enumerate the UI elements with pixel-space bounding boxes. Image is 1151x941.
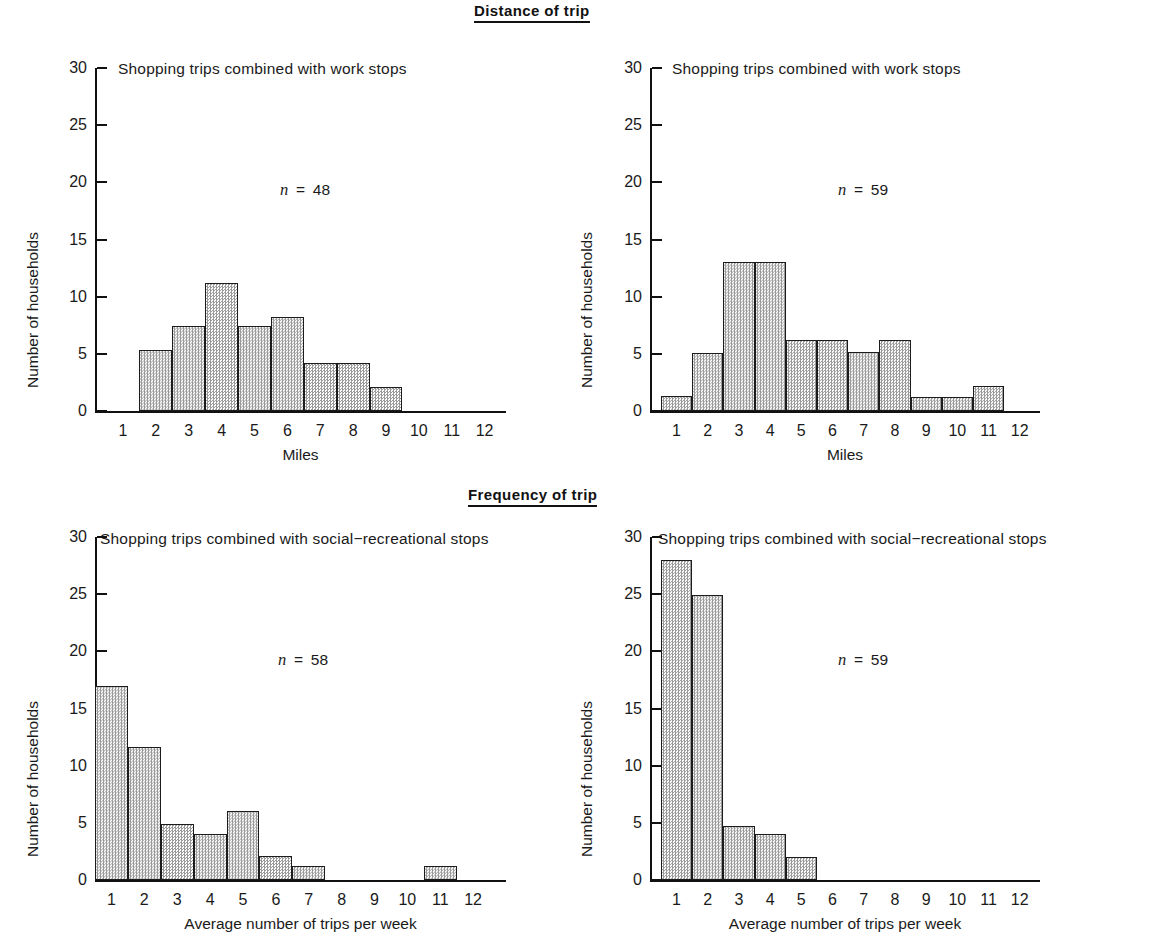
x-axis-line-top-right <box>650 411 1040 413</box>
histogram-bar <box>786 340 817 411</box>
y-tick-top-right-10 <box>652 296 662 298</box>
x-axis-title-top-left: Miles <box>95 446 506 464</box>
y-tick-top-left-10 <box>97 296 107 298</box>
y-tick-label-top-left-10: 10 <box>51 289 87 305</box>
y-tick-label-bottom-right-15: 15 <box>606 701 642 717</box>
x-axis-title-bottom-right: Average number of trips per week <box>650 915 1040 933</box>
y-tick-label-bottom-right-25: 25 <box>606 586 642 602</box>
y-tick-top-right-15 <box>652 239 662 241</box>
histogram-bar <box>942 397 973 411</box>
y-tick-label-bottom-left-20: 20 <box>51 643 87 659</box>
y-tick-label-top-left-30: 30 <box>51 60 87 76</box>
histogram-bar <box>95 686 128 880</box>
histogram-bar <box>337 363 370 411</box>
histogram-bar <box>755 834 786 880</box>
y-tick-label-top-right-15: 15 <box>606 232 642 248</box>
y-axis-title-bottom-right: Number of households <box>578 701 596 857</box>
y-tick-label-top-right-30: 30 <box>606 60 642 76</box>
y-tick-label-bottom-right-30: 30 <box>606 529 642 545</box>
x-axis-line-bottom-right <box>650 880 1040 882</box>
plot-area-bottom-right: 051015202530123456789101112 <box>650 537 1040 880</box>
y-tick-label-top-right-0: 0 <box>606 403 642 419</box>
x-tick-label-bottom-left-12: 12 <box>453 892 493 908</box>
histogram-bar <box>259 856 292 880</box>
y-tick-top-left-5 <box>97 353 107 355</box>
y-tick-label-bottom-left-15: 15 <box>51 701 87 717</box>
histogram-bar <box>692 353 723 411</box>
y-tick-bottom-left-30 <box>97 536 107 538</box>
y-tick-top-right-20 <box>652 181 662 183</box>
y-tick-bottom-right-30 <box>652 536 662 538</box>
y-tick-top-left-30 <box>97 67 107 69</box>
histogram-bar <box>661 560 692 880</box>
y-tick-bottom-left-20 <box>97 650 107 652</box>
histogram-bar <box>292 866 325 880</box>
y-tick-top-right-30 <box>652 67 662 69</box>
y-tick-label-top-left-20: 20 <box>51 174 87 190</box>
y-axis-title-top-left: Number of households <box>24 232 42 388</box>
y-tick-top-left-25 <box>97 124 107 126</box>
y-tick-label-bottom-left-0: 0 <box>51 872 87 888</box>
histogram-bar <box>139 350 172 411</box>
histogram-bar <box>692 595 723 880</box>
y-tick-label-top-right-20: 20 <box>606 174 642 190</box>
y-tick-label-top-left-5: 5 <box>51 346 87 362</box>
histogram-bar <box>227 811 260 880</box>
histogram-bar <box>161 824 194 880</box>
histogram-bar <box>238 326 271 411</box>
y-tick-label-bottom-left-30: 30 <box>51 529 87 545</box>
y-tick-top-right-5 <box>652 353 662 355</box>
y-tick-label-top-left-0: 0 <box>51 403 87 419</box>
histogram-bar <box>304 363 337 411</box>
y-tick-top-left-0 <box>97 410 107 412</box>
y-tick-top-right-25 <box>652 124 662 126</box>
x-axis-line-bottom-left <box>95 880 506 882</box>
y-tick-label-top-right-10: 10 <box>606 289 642 305</box>
y-axis-title-top-right: Number of households <box>578 232 596 388</box>
histogram-bar <box>786 857 817 880</box>
x-tick-label-top-left-12: 12 <box>465 423 505 439</box>
histogram-bar <box>128 747 161 880</box>
histogram-bar <box>973 386 1004 411</box>
y-tick-top-left-20 <box>97 181 107 183</box>
histogram-bar <box>271 317 304 411</box>
histogram-bar <box>424 866 457 880</box>
x-axis-line-top-left <box>95 411 506 413</box>
x-tick-label-bottom-right-12: 12 <box>1000 892 1040 908</box>
y-axis-title-bottom-left: Number of households <box>24 701 42 857</box>
y-tick-label-bottom-left-10: 10 <box>51 758 87 774</box>
histogram-bar <box>755 262 786 411</box>
y-tick-label-top-left-15: 15 <box>51 232 87 248</box>
plot-area-top-right: 051015202530123456789101112 <box>650 68 1040 411</box>
histogram-bar <box>848 352 879 411</box>
y-tick-label-bottom-right-10: 10 <box>606 758 642 774</box>
y-tick-label-bottom-left-5: 5 <box>51 815 87 831</box>
x-axis-title-top-right: Miles <box>650 446 1040 464</box>
histogram-bar <box>723 262 754 411</box>
y-tick-label-bottom-right-5: 5 <box>606 815 642 831</box>
section-heading-distance-of-trip: Distance of trip <box>474 2 590 23</box>
y-tick-top-left-15 <box>97 239 107 241</box>
y-tick-label-top-left-25: 25 <box>51 117 87 133</box>
y-tick-label-top-right-25: 25 <box>606 117 642 133</box>
histogram-bar <box>817 340 848 411</box>
plot-area-top-left: 051015202530123456789101112 <box>95 68 506 411</box>
histogram-bar <box>194 834 227 880</box>
histogram-bar <box>879 340 910 411</box>
y-tick-label-top-right-5: 5 <box>606 346 642 362</box>
histogram-bar <box>911 397 942 411</box>
histogram-bar <box>723 826 754 880</box>
y-tick-bottom-left-25 <box>97 593 107 595</box>
histogram-bar <box>205 283 238 411</box>
histogram-bar <box>370 387 403 411</box>
x-axis-title-bottom-left: Average number of trips per week <box>95 915 506 933</box>
y-tick-label-bottom-right-0: 0 <box>606 872 642 888</box>
x-tick-label-top-right-12: 12 <box>1000 423 1040 439</box>
section-heading-frequency-of-trip: Frequency of trip <box>468 486 597 507</box>
plot-area-bottom-left: 051015202530123456789101112 <box>95 537 506 880</box>
y-tick-label-bottom-right-20: 20 <box>606 643 642 659</box>
y-tick-label-bottom-left-25: 25 <box>51 586 87 602</box>
histogram-bar <box>172 326 205 411</box>
histogram-bar <box>661 396 692 411</box>
